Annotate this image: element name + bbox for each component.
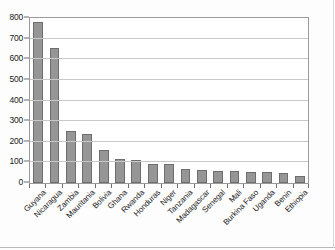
gridline	[30, 38, 308, 39]
bar-slot	[46, 18, 62, 183]
gridline	[30, 120, 308, 121]
bar-series	[30, 18, 308, 183]
bar[interactable]	[279, 173, 289, 183]
bar-slot	[30, 18, 46, 183]
y-axis-tick-label: 600	[9, 53, 23, 63]
bar-slot	[210, 18, 226, 183]
y-axis-tick-label: 300	[9, 115, 23, 125]
bar-slot	[79, 18, 95, 183]
bar[interactable]	[230, 171, 240, 183]
bar-slot	[292, 18, 308, 183]
figure-right-border	[333, 0, 334, 248]
bar[interactable]	[66, 131, 76, 183]
bar[interactable]	[181, 169, 191, 183]
y-axis-tick-label: 100	[9, 156, 23, 166]
bar[interactable]	[197, 170, 207, 183]
bar-slot	[95, 18, 111, 183]
bar[interactable]	[115, 159, 125, 183]
bar[interactable]	[164, 164, 174, 183]
bar[interactable]	[295, 176, 305, 183]
bar-slot	[112, 18, 128, 183]
y-axis-tick-label: 0	[18, 177, 23, 187]
bar-slot	[145, 18, 161, 183]
bar-slot	[194, 18, 210, 183]
y-axis: 0100200300400500600700800	[0, 17, 29, 184]
bar[interactable]	[262, 172, 272, 183]
bar[interactable]	[131, 160, 141, 183]
x-axis-labels: GuyanaNicaraguaZambiaMauritaniaBoliviaGh…	[29, 188, 309, 246]
figure-bottom-border	[0, 247, 335, 248]
plot-area	[29, 17, 309, 184]
bar-slot	[63, 18, 79, 183]
bar[interactable]	[148, 164, 158, 183]
bar-slot	[128, 18, 144, 183]
bar[interactable]	[213, 171, 223, 183]
bar[interactable]	[246, 172, 256, 183]
bar[interactable]	[33, 22, 43, 183]
gridline	[30, 161, 308, 162]
y-axis-tick-label: 400	[9, 95, 23, 105]
bar-slot	[226, 18, 242, 183]
gridline	[30, 79, 308, 80]
bar-slot	[177, 18, 193, 183]
gridline	[30, 100, 308, 101]
gridline	[30, 58, 308, 59]
y-axis-tick-label: 700	[9, 33, 23, 43]
bar-slot	[275, 18, 291, 183]
y-axis-tick-label: 200	[9, 136, 23, 146]
bar[interactable]	[99, 150, 109, 183]
bar-slot	[259, 18, 275, 183]
bar-slot	[161, 18, 177, 183]
chart-figure: 0100200300400500600700800 GuyanaNicaragu…	[0, 0, 335, 250]
y-axis-tick-label: 800	[9, 12, 23, 22]
y-axis-tick-label: 500	[9, 74, 23, 84]
gridline	[30, 141, 308, 142]
bar[interactable]	[50, 48, 60, 183]
bar-slot	[243, 18, 259, 183]
